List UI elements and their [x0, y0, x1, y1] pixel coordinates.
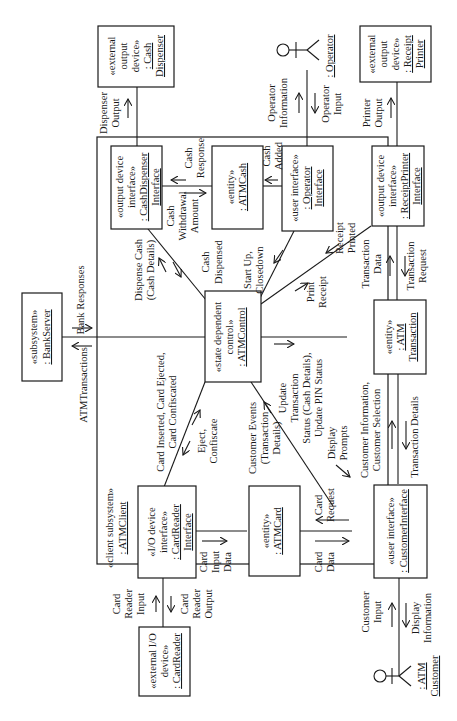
svg-text:Card: Card — [313, 551, 324, 572]
svg-text:Cash: Cash — [261, 145, 272, 167]
svg-text:Output: Output — [373, 98, 384, 127]
svg-text:Added: Added — [273, 141, 284, 170]
svg-text:ATMTransactions: ATMTransactions — [78, 347, 89, 422]
svg-text:«external: «external — [366, 34, 377, 73]
svg-text:Card Confiscated: Card Confiscated — [167, 375, 178, 449]
svg-text:: ATM: : ATM — [395, 323, 406, 351]
svg-text:Receipt: Receipt — [334, 222, 345, 254]
atm-transaction: «entity» : ATM Transaction — [374, 300, 426, 374]
svg-text:(Cash Details): (Cash Details) — [145, 239, 157, 300]
svg-text:Start Up,: Start Up, — [242, 251, 253, 289]
svg-text:Display: Display — [326, 426, 337, 459]
svg-text:«client subsystem»: «client subsystem» — [104, 488, 115, 568]
svg-text:Input: Input — [332, 93, 343, 115]
svg-text:«entity»: «entity» — [225, 170, 236, 204]
svg-text:Output: Output — [110, 98, 121, 127]
svg-text:control»: control» — [224, 320, 235, 355]
svg-text:Data: Data — [222, 552, 233, 572]
svg-text:Card: Card — [198, 551, 209, 572]
svg-text:Card: Card — [111, 593, 122, 614]
svg-text:Customer Events: Customer Events — [247, 402, 258, 474]
svg-text:: ReceiptPrinter: : ReceiptPrinter — [399, 152, 410, 219]
svg-text:Dispensed: Dispensed — [213, 239, 224, 283]
svg-text:Interface: Interface — [182, 513, 193, 551]
customer-interface: «user interface» : CustomerInterface — [374, 485, 427, 578]
svg-text:Closedown: Closedown — [254, 246, 265, 294]
svg-text:Update PIN Status: Update PIN Status — [313, 359, 324, 437]
svg-text:: Operator: : Operator — [324, 34, 335, 77]
svg-text:«output device: «output device — [114, 156, 125, 218]
svg-text:interface»: interface» — [387, 165, 398, 207]
svg-text:output: output — [378, 41, 389, 68]
svg-text:Information: Information — [278, 77, 289, 128]
svg-text:«output device: «output device — [375, 155, 386, 217]
svg-text:Reader: Reader — [191, 589, 202, 619]
svg-text:Card: Card — [179, 593, 190, 614]
svg-text:Response: Response — [195, 138, 206, 179]
customer-actor: : ATM Customer — [374, 636, 440, 696]
card-reader-interface: «I/O device interface» : CardReader Inte… — [138, 486, 196, 578]
svg-text:Transaction: Transaction — [407, 312, 418, 362]
svg-text:: Cash: : Cash — [142, 42, 153, 69]
svg-text:«entity»: «entity» — [260, 514, 271, 548]
svg-text:: ATMCard: : ATMCard — [272, 506, 283, 554]
svg-text:Operator: Operator — [266, 84, 277, 122]
actor-head-icon — [277, 44, 289, 56]
atm-card: «entity» : ATMCard — [249, 486, 300, 576]
receipt-printer-interface: «output device interface» : ReceiptPrint… — [372, 146, 424, 226]
svg-text:Dispenser: Dispenser — [154, 35, 165, 77]
svg-text:Amount: Amount — [189, 199, 200, 234]
svg-text:: Operator: : Operator — [301, 166, 312, 209]
svg-text:Cash: Cash — [165, 205, 176, 227]
atm-communication-diagram: «external output device» : Cash Dispense… — [0, 0, 457, 721]
svg-text:Transaction: Transaction — [289, 373, 300, 423]
svg-text:Customer: Customer — [360, 591, 371, 632]
svg-text:Interface: Interface — [313, 169, 324, 207]
external-receipt-printer: «external output device» : Receipt Print… — [360, 26, 431, 82]
svg-text:Transaction Details: Transaction Details — [409, 396, 420, 478]
svg-text:Customer: Customer — [429, 655, 440, 696]
svg-text:: CashDispenser: : CashDispenser — [138, 152, 149, 221]
svg-text:Transaction: Transaction — [360, 239, 371, 289]
svg-text:Data: Data — [372, 254, 383, 274]
svg-text:Printed: Printed — [346, 222, 357, 253]
svg-text:Eject,: Eject, — [196, 429, 207, 453]
atm-control: «state dependent control» : ATMControl — [205, 291, 261, 382]
svg-text:Dispenser: Dispenser — [98, 92, 109, 134]
svg-text:Card: Card — [313, 494, 324, 515]
svg-text:Input: Input — [210, 551, 221, 573]
bank-server: «subsystem» : BankServer — [22, 293, 62, 381]
svg-text:«subsystem»: «subsystem» — [28, 310, 39, 364]
svg-text:«entity»: «entity» — [383, 320, 394, 354]
svg-text:Update: Update — [277, 383, 288, 414]
svg-text:Transaction: Transaction — [405, 241, 416, 291]
svg-text:Cash: Cash — [183, 147, 194, 169]
svg-text:Details): Details) — [271, 421, 283, 455]
svg-text:«user interface»: «user interface» — [289, 154, 300, 221]
svg-text:«external: «external — [106, 36, 117, 75]
svg-text:Withdrawal: Withdrawal — [177, 191, 188, 240]
svg-text:«I/O device: «I/O device — [146, 507, 157, 557]
svg-text:Input: Input — [135, 593, 146, 615]
svg-text:(Transaction: (Transaction — [259, 411, 271, 464]
svg-text:Interface: Interface — [150, 168, 161, 206]
svg-text:Customer Information,: Customer Information, — [359, 382, 370, 478]
svg-text:Cash: Cash — [200, 251, 211, 273]
atm-cash: «entity» : ATMCash — [212, 146, 263, 229]
svg-text:Customer Selection: Customer Selection — [371, 388, 382, 471]
svg-text:Receipt: Receipt — [317, 276, 328, 308]
svg-text:: ATMControl: : ATMControl — [236, 307, 247, 366]
operator-actor: : Operator — [277, 34, 335, 77]
svg-text:Input: Input — [372, 601, 383, 623]
svg-text:Reader: Reader — [123, 589, 134, 619]
svg-text:Display: Display — [410, 601, 421, 634]
client-subsystem-label: «client subsystem» : ATMClient — [104, 488, 128, 568]
operator-interface: «user interface» : Operator Interface — [282, 146, 333, 231]
svg-text:device»: device» — [390, 38, 401, 71]
svg-text:: CardReader: : CardReader — [171, 633, 182, 689]
svg-text:Dispense Cash: Dispense Cash — [133, 238, 144, 301]
svg-text:Information: Information — [422, 592, 433, 643]
svg-text:Printer: Printer — [361, 98, 372, 127]
svg-text:: Receipt: : Receipt — [402, 35, 413, 73]
svg-text:Request: Request — [325, 488, 336, 522]
